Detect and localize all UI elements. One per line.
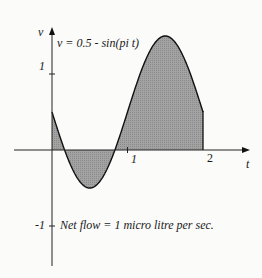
equation-label: v = 0.5 - sin(pi t) bbox=[57, 36, 139, 50]
x-tick-label-2: 2 bbox=[207, 151, 213, 165]
x-axis-label: t bbox=[246, 157, 250, 171]
y-axis-arrow-icon bbox=[49, 27, 55, 35]
x-axis-arrow-icon bbox=[242, 147, 250, 153]
y-tick-label-1: 1 bbox=[39, 59, 45, 73]
chart-canvas: v v = 0.5 - sin(pi t) 1 1 2 t -1 Net flo… bbox=[0, 0, 262, 278]
y-tick-label-neg1: -1 bbox=[35, 218, 45, 232]
y-axis-label: v bbox=[38, 25, 44, 39]
annotation-net-flow: Net flow = 1 micro litre per sec. bbox=[59, 218, 214, 232]
x-tick-label-1: 1 bbox=[131, 152, 137, 166]
